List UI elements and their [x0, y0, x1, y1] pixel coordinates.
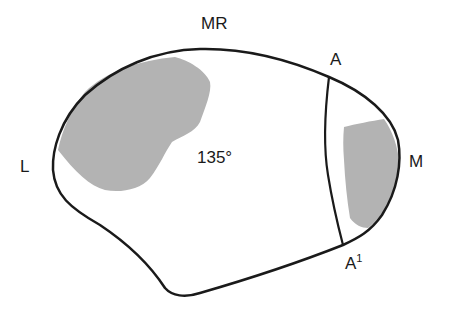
label-a: A [330, 50, 342, 69]
label-a1-sup: 1 [356, 252, 362, 264]
label-mr: MR [201, 14, 227, 33]
line-a-a1 [325, 77, 343, 245]
diagram-canvas: MR L M A A1 135° [0, 0, 452, 317]
label-a1: A1 [345, 252, 362, 273]
label-l: L [20, 157, 29, 176]
shaded-region-right [343, 119, 399, 228]
label-a1-base: A [345, 254, 357, 273]
label-angle: 135° [197, 148, 232, 167]
label-m: M [409, 152, 423, 171]
shaded-region-left [58, 57, 210, 191]
